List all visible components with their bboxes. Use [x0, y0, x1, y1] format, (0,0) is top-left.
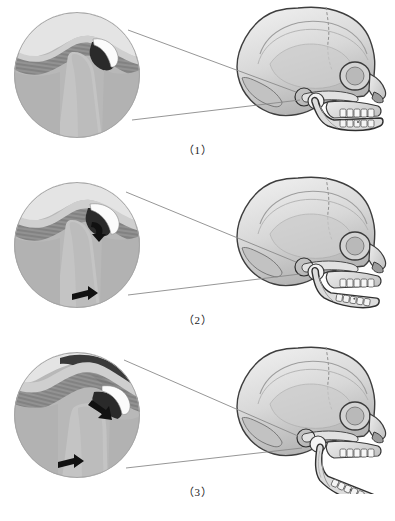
panel-stage-2: （2）: [0, 170, 395, 340]
panel-caption-3: （3）: [0, 483, 395, 499]
lateral-skull-wide-open: [228, 342, 395, 494]
panel-stage-3: （3）: [0, 340, 395, 510]
panel-caption-2: （2）: [0, 311, 395, 327]
lateral-skull-partially-open: [228, 172, 395, 324]
panel-stage-1: （1）: [0, 0, 395, 170]
tmj-detail-closed: [14, 12, 140, 138]
panel-caption-1: （1）: [0, 141, 395, 157]
lateral-skull-closed: [228, 2, 395, 154]
tmj-detail-rotation: [14, 182, 140, 308]
tmj-movement-figure: （1）: [0, 0, 395, 521]
tmj-detail-translation: [14, 352, 140, 478]
